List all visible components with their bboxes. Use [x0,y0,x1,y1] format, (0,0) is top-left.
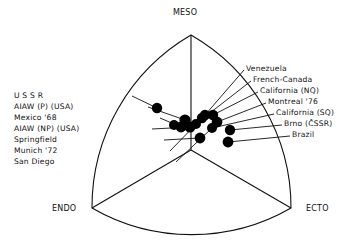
data-point [169,120,179,130]
callout-label-mexico-68: Mexico '68 [14,113,57,122]
callout-label-montreal-76: Montreal '76 [268,97,318,106]
callout-label-french-canada: French-Canada [253,75,312,84]
axis-label-meso: MESO [173,8,197,17]
data-point [195,133,206,144]
callout-label-brazil: Brazil [292,130,314,139]
somatochart-figure: MESOENDOECTO U S S RAIAW (P) (USA)Mexico… [0,0,358,247]
callout-label-aiaw-p-usa: AIAW (P) (USA) [14,102,74,111]
data-point [223,137,234,148]
callout-label-munich-72: Munich '72 [14,146,57,155]
callout-label-ussr: U S S R [14,91,43,100]
callout-label-aiaw-np-usa: AIAW (NP) (USA) [14,124,79,133]
callout-label-springfield: Springfield [14,135,57,144]
data-point [207,123,217,133]
data-point [152,103,162,113]
data-point [191,119,201,129]
callout-label-venezuela: Venezuela [246,64,287,73]
data-point [225,125,235,135]
callout-label-brno-cssr: Brno (ČSSR) [284,119,332,128]
callout-label-california-nq: California (NQ) [260,86,319,95]
axis-label-endo: ENDO [52,204,76,213]
callout-label-california-sq: California (SQ) [276,108,334,117]
axis-label-ecto: ECTO [306,204,329,213]
callout-label-san-diego: San Diego [14,157,55,166]
